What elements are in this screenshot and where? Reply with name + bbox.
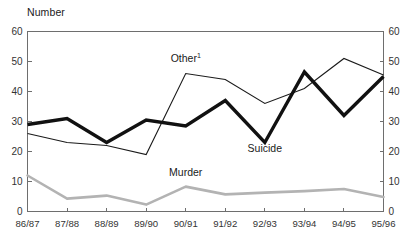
y-axis-tick-label: 40 xyxy=(11,86,23,97)
series-line-other xyxy=(28,59,384,155)
series-label-murder: Murder xyxy=(169,166,203,178)
x-axis-tick-label: 89/90 xyxy=(134,218,158,229)
x-axis-tick-label: 88/89 xyxy=(95,218,119,229)
x-axis-tick-label: 86/87 xyxy=(15,218,39,229)
right-axis-tick-label: 40 xyxy=(389,86,401,97)
y-axis-tick-label: 10 xyxy=(11,176,23,187)
series-label-other: Other1 xyxy=(171,52,201,64)
x-axis-ticks: 86/8787/8888/8989/9090/9191/9292/9393/94… xyxy=(15,208,395,229)
y-axis-tick-label: 20 xyxy=(11,146,23,157)
y-axis-tick-label: 0 xyxy=(17,206,23,217)
y-axis-tick-label: 60 xyxy=(11,26,23,37)
series-annotations: Other1SuicideMurder xyxy=(169,52,282,178)
y-axis-tick-label: 30 xyxy=(11,116,23,127)
right-axis-tick-label: 60 xyxy=(389,26,401,37)
x-axis-tick-label: 94/95 xyxy=(332,218,356,229)
x-axis-tick-label: 93/94 xyxy=(292,218,317,229)
series-label-suicide: Suicide xyxy=(248,142,283,154)
series-line-murder xyxy=(28,176,384,205)
x-axis-tick-label: 91/92 xyxy=(213,218,237,229)
y-axis-tick-label: 50 xyxy=(11,56,23,67)
right-axis-tick-label: 30 xyxy=(389,116,401,127)
left-axis-ticks: 0102030405060 xyxy=(11,26,31,217)
chart-series xyxy=(28,59,384,205)
right-axis-tick-label: 50 xyxy=(389,56,401,67)
right-axis-ticks: 0102030405060 xyxy=(380,26,401,217)
chart-axes xyxy=(28,32,384,212)
x-axis-tick-label: 87/88 xyxy=(55,218,79,229)
right-axis-tick-label: 20 xyxy=(389,146,401,157)
x-axis-tick-label: 92/93 xyxy=(253,218,277,229)
line-chart-plot: 0102030405060 0102030405060 86/8787/8888… xyxy=(0,0,404,242)
plot-border xyxy=(28,32,384,212)
x-axis-tick-label: 90/91 xyxy=(174,218,198,229)
right-axis-tick-label: 10 xyxy=(389,176,401,187)
right-axis-tick-label: 0 xyxy=(389,206,395,217)
series-line-suicide xyxy=(28,72,384,143)
x-axis-tick-label: 95/96 xyxy=(371,218,395,229)
chart-container: Number 0102030405060 0102030405060 86/87… xyxy=(0,0,404,242)
